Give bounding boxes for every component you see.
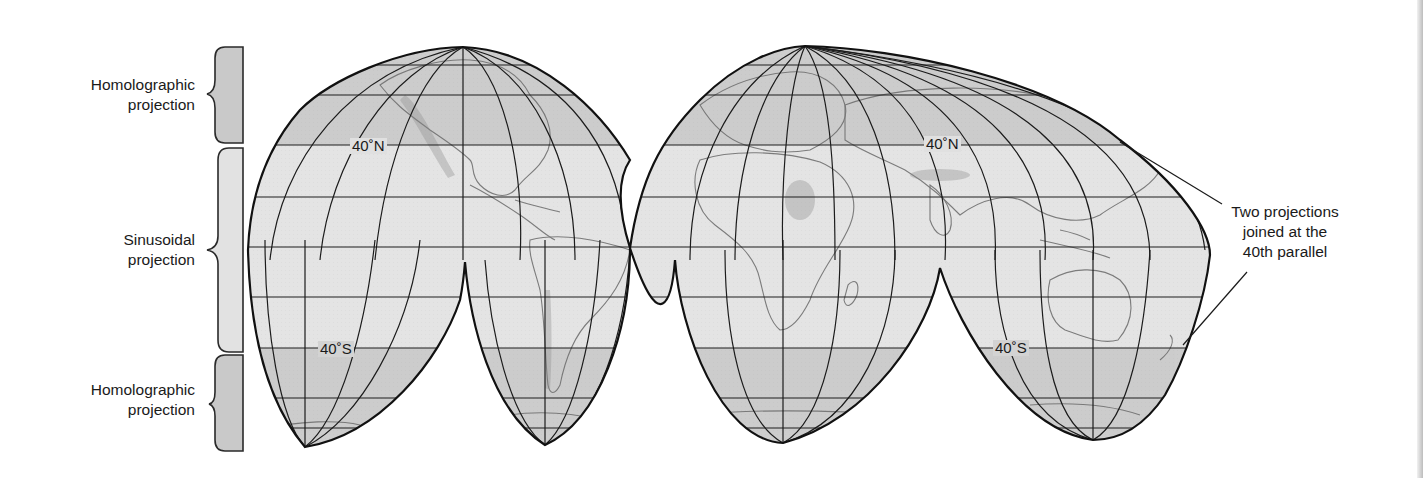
lat-label-40s-west: 40˚S: [318, 341, 354, 357]
brace-homolographic-bottom: [209, 355, 243, 451]
label-line: projection: [20, 95, 195, 115]
callout-text: Two projections joined at the 40th paral…: [1205, 202, 1365, 262]
brace-homolographic-top: [207, 47, 243, 143]
label-homolographic-top: Homolographic projection: [20, 75, 195, 115]
label-homolographic-bottom: Homolographic projection: [20, 380, 195, 420]
lat-label-40n-east: 40˚N: [924, 136, 961, 152]
page-edge-shadow: [1417, 0, 1423, 478]
label-line: Homolographic: [20, 75, 195, 95]
lat-label-40s-east: 40˚S: [993, 340, 1029, 356]
label-line: Homolographic: [20, 380, 195, 400]
label-line: projection: [20, 400, 195, 420]
label-line: projection: [20, 250, 195, 270]
label-sinusoidal: Sinusoidal projection: [20, 230, 195, 270]
lat-label-40n-west: 40˚N: [350, 138, 387, 154]
callout-line: Two projections: [1205, 202, 1365, 222]
label-line: Sinusoidal: [20, 230, 195, 250]
callout-line: 40th parallel: [1205, 242, 1365, 262]
callout-line: joined at the: [1205, 222, 1365, 242]
brace-sinusoidal: [207, 148, 243, 352]
